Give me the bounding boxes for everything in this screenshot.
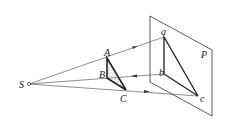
label-C: C	[120, 93, 127, 104]
source-point	[27, 82, 30, 85]
label-source: S	[19, 79, 24, 90]
label-a: a	[161, 26, 166, 37]
label-B: B	[99, 69, 105, 80]
triangle-projection-abc	[164, 37, 198, 96]
triangle-abc	[107, 58, 126, 90]
ray-arrows	[131, 46, 150, 93]
label-c: c	[200, 93, 205, 104]
label-A: A	[103, 47, 111, 58]
projection-diagram: S A B C a b c P	[0, 0, 229, 130]
label-b: b	[159, 67, 164, 78]
projection-rays	[29, 37, 198, 96]
label-plane: P	[200, 49, 207, 60]
